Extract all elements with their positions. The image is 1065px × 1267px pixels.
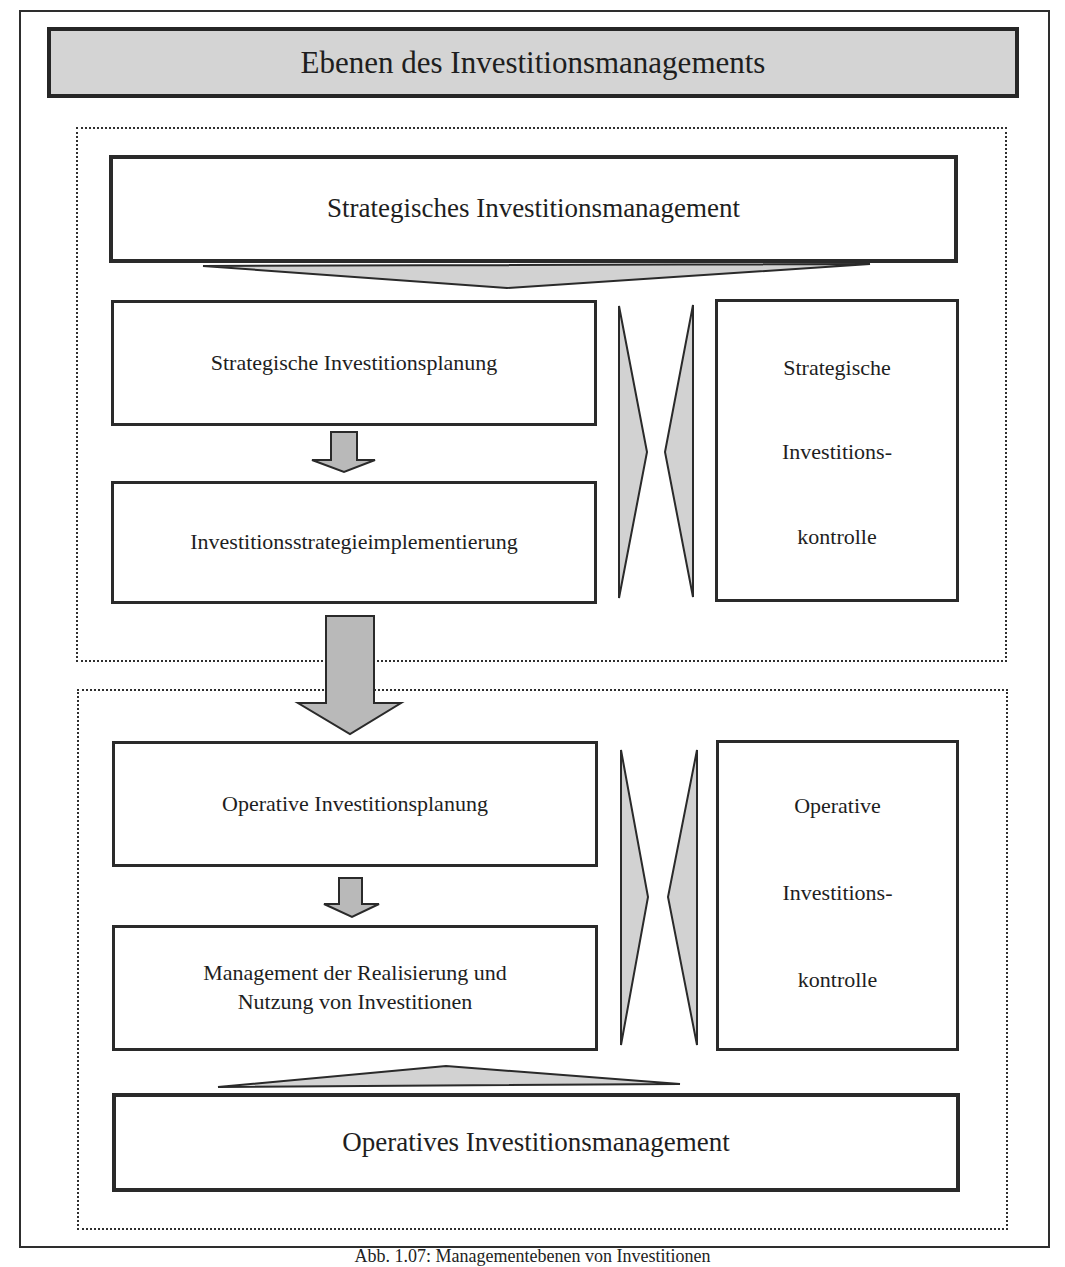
- strategic-management-label: Strategisches Investitionsmanagement: [327, 191, 740, 226]
- realization-line-1: Management der Realisierung und: [203, 959, 507, 988]
- operative-control-box: Operative Investitions- kontrolle: [716, 740, 959, 1051]
- figure-caption: Abb. 1.07: Managementebenen von Investit…: [0, 1246, 1065, 1267]
- strategic-control-box: Strategische Investitions- kontrolle: [715, 299, 959, 602]
- strategic-planning-box: Strategische Investitionsplanung: [111, 300, 597, 426]
- diagram-title: Ebenen des Investitionsmanagements: [301, 45, 766, 81]
- strategic-management-box: Strategisches Investitionsmanagement: [109, 155, 958, 263]
- operative-control-line-1: Operative: [794, 792, 881, 821]
- strategy-implementation-box: Investitionsstrategieimplementierung: [111, 481, 597, 604]
- strategy-implementation-label: Investitionsstrategieimplementierung: [190, 528, 517, 557]
- operative-management-label: Operatives Investitionsmanagement: [342, 1125, 730, 1160]
- strategic-control-line-3: kontrolle: [797, 523, 876, 552]
- operative-planning-label: Operative Investitionsplanung: [222, 790, 488, 819]
- strategic-control-line-2: Investitions-: [782, 438, 892, 467]
- operative-planning-box: Operative Investitionsplanung: [112, 741, 598, 867]
- strategic-planning-label: Strategische Investitionsplanung: [211, 349, 498, 378]
- operative-management-box: Operatives Investitionsmanagement: [112, 1093, 960, 1192]
- operative-control-line-2: Investitions-: [783, 879, 893, 908]
- diagram-title-box: Ebenen des Investitionsmanagements: [47, 27, 1019, 98]
- realization-box: Management der Realisierung und Nutzung …: [112, 925, 598, 1051]
- realization-line-2: Nutzung von Investitionen: [238, 988, 473, 1017]
- strategic-control-line-1: Strategische: [783, 354, 891, 383]
- operative-control-line-3: kontrolle: [798, 966, 877, 995]
